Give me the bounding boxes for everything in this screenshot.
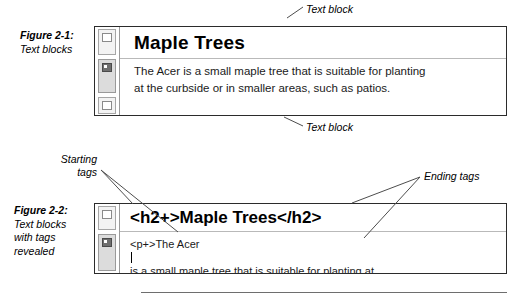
figure-2-2-paragraph-text: <p+>The Acer is a small maple tree that … bbox=[130, 236, 385, 274]
figure-2-2-gutter-rail bbox=[95, 204, 120, 273]
figure-2-2-caption-number: Figure 2-2: bbox=[14, 204, 92, 218]
annotation-text-block-heading: Text block bbox=[306, 3, 353, 16]
annotation-text-block-paragraph: Text block bbox=[306, 121, 353, 134]
gutter-marker-heading[interactable] bbox=[98, 234, 116, 271]
figure-2-2-caption-line-1: Text blocks bbox=[14, 218, 92, 232]
leader-line-text-block-heading bbox=[287, 7, 303, 18]
heading-marker-icon bbox=[102, 238, 112, 247]
figure-2-1-caption: Figure 2-1: Text blocks bbox=[20, 29, 90, 56]
bottom-divider-rule bbox=[141, 292, 507, 293]
gutter-marker-paragraph-bottom[interactable] bbox=[98, 97, 116, 114]
leader-line-ending-tags-h2 bbox=[352, 177, 420, 203]
paragraph-marker-icon bbox=[102, 33, 112, 42]
figure-2-1-editor-window: Maple Trees The Acer is a small maple tr… bbox=[94, 26, 507, 116]
gutter-marker-paragraph-top[interactable] bbox=[98, 29, 116, 55]
leader-line-text-block-paragraph bbox=[284, 117, 303, 126]
figure-2-1-content-pane[interactable]: Maple Trees The Acer is a small maple tr… bbox=[120, 27, 506, 115]
figure-2-1-paragraph-text: The Acer is a small maple tree that is s… bbox=[134, 63, 425, 97]
figure-2-1-block-divider bbox=[120, 58, 506, 59]
figure-2-2-caption: Figure 2-2: Text blocks with tags reveal… bbox=[14, 204, 92, 258]
figure-2-2-paragraph-line-1-before-caret: <p+>The Acer bbox=[130, 236, 385, 252]
annotation-starting-tags: Starting tags bbox=[42, 153, 97, 179]
figure-2-1-heading-text: Maple Trees bbox=[134, 32, 245, 54]
figure-2-2-caption-line-2: with tags bbox=[14, 231, 92, 245]
figure-2-2-editor-window: <h2+>Maple Trees</h2> <p+>The Acer is a … bbox=[94, 203, 507, 274]
figure-2-2-content-pane[interactable]: <h2+>Maple Trees</h2> <p+>The Acer is a … bbox=[120, 204, 506, 273]
figure-2-2-heading-text: <h2+>Maple Trees</h2> bbox=[130, 208, 321, 228]
figure-2-1-paragraph-line-1: The Acer is a small maple tree that is s… bbox=[134, 63, 425, 80]
text-caret bbox=[131, 252, 132, 263]
figure-2-1-caption-line: Text blocks bbox=[20, 43, 90, 57]
figure-2-2-paragraph-line-1: <p+>The Acer is a small maple tree that … bbox=[130, 236, 385, 274]
figure-2-2-caption-line-3: revealed bbox=[14, 245, 92, 259]
figure-2-1-paragraph-line-2: at the curbside or in smaller areas, suc… bbox=[134, 80, 425, 97]
figure-2-1-editor-inner: Maple Trees The Acer is a small maple tr… bbox=[95, 27, 506, 115]
figure-2-1-caption-number: Figure 2-1: bbox=[20, 29, 90, 43]
figure-2-2-block-divider bbox=[120, 231, 506, 232]
figure-2-2-paragraph-line-1-after-caret: is a small maple tree that is suitable f… bbox=[130, 263, 385, 274]
leader-line-starting-tags-h2 bbox=[101, 170, 133, 204]
figure-2-1-gutter-rail bbox=[95, 27, 120, 115]
gutter-marker-heading[interactable] bbox=[98, 59, 116, 93]
heading-marker-icon bbox=[102, 63, 112, 72]
gutter-marker-paragraph-top[interactable] bbox=[98, 206, 116, 230]
paragraph-marker-icon bbox=[102, 101, 112, 110]
paragraph-marker-icon bbox=[102, 210, 112, 219]
figure-2-2-editor-inner: <h2+>Maple Trees</h2> <p+>The Acer is a … bbox=[95, 204, 506, 273]
annotation-ending-tags: Ending tags bbox=[424, 170, 479, 183]
